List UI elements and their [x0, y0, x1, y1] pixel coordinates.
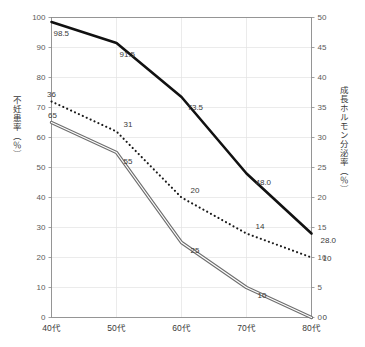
data-point-label: 14: [256, 222, 265, 231]
y-axis-right-tick-label: 5: [318, 283, 323, 292]
y-axis-left-tick-label: 30: [37, 223, 46, 232]
y-axis-right-tick-label: 40: [318, 73, 327, 82]
x-axis-tick-label: 70代: [237, 323, 255, 333]
x-axis-tick-label: 80代: [302, 323, 320, 333]
data-point-label: 55: [124, 157, 133, 166]
data-point-label: 10: [323, 254, 332, 263]
y-axis-left-tick-label: 10: [37, 283, 46, 292]
y-axis-right-tick-label: 15: [318, 223, 327, 232]
y-axis-left-tick-label: 40: [37, 193, 46, 202]
y-axis-left-tick-label: 100: [32, 13, 46, 22]
x-axis-tick-label: 50代: [107, 323, 125, 333]
y-axis-right-tick-label: 45: [318, 43, 327, 52]
chart-plot: 0102030405060708090100 05101520253035404…: [0, 0, 365, 347]
data-point-label: 65: [48, 111, 57, 120]
data-point-label: 98.5: [54, 29, 70, 38]
gridlines: [52, 18, 312, 318]
data-point-label: 91.5: [120, 50, 136, 59]
y-axis-right-tick-label: 35: [318, 103, 327, 112]
y-axis-left-tick-label: 90: [37, 43, 46, 52]
x-axis-categories: 40代50代60代70代80代: [42, 323, 320, 333]
y-axis-left-tick-label: 50: [37, 163, 46, 172]
data-point-label: 36: [47, 90, 56, 99]
y-axis-left-ticks: 0102030405060708090100: [32, 13, 51, 322]
y-axis-left-tick-label: 20: [37, 253, 46, 262]
data-point-label: 20: [191, 186, 200, 195]
x-axis-tick-label: 40代: [42, 323, 60, 333]
y-axis-right-tick-label: 30: [318, 133, 327, 142]
y-axis-left-tick-label: 60: [37, 133, 46, 142]
data-point-label: 28.0: [321, 236, 337, 245]
y-axis-left-tick-label: 70: [37, 103, 46, 112]
data-point-label: 0: [323, 313, 328, 322]
x-axis-tick-label: 60代: [172, 323, 190, 333]
y-axis-right-tick-label: 25: [318, 163, 327, 172]
data-point-labels: 98.591.573.548.028.03631201410655525100: [47, 29, 337, 322]
data-point-label: 73.5: [188, 103, 204, 112]
data-point-label: 48.0: [256, 178, 272, 187]
data-point-label: 25: [191, 246, 200, 255]
y-axis-left-tick-label: 80: [37, 73, 46, 82]
y-axis-right-tick-label: 20: [318, 193, 327, 202]
y-axis-right-tick-label: 50: [318, 13, 327, 22]
y-axis-left-tick-label: 0: [41, 313, 46, 322]
chart-container: 不妊患率（％） 成長ホルモン分泌率（％） 0102030405060708090…: [0, 0, 365, 347]
y-axis-right-ticks: 05101520253035404550: [312, 13, 327, 322]
data-point-label: 31: [124, 120, 133, 129]
data-point-label: 10: [258, 291, 267, 300]
